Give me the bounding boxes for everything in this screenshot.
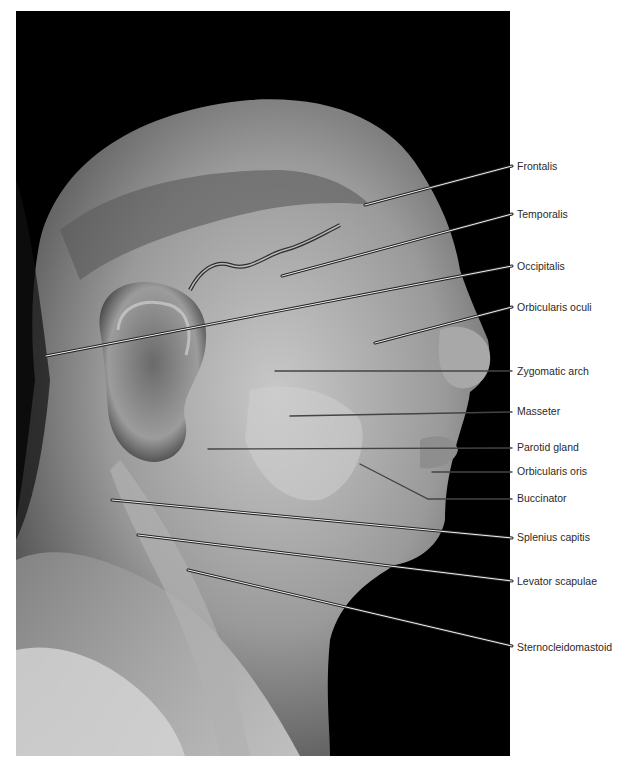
label-sternocleidomastoid: Sternocleidomastoid: [517, 641, 612, 653]
label-frontalis: Frontalis: [517, 160, 557, 172]
anatomy-figure: Frontalis Temporalis Occipitalis Orbicul…: [0, 0, 629, 769]
label-occipitalis: Occipitalis: [517, 260, 565, 272]
label-buccinator: Buccinator: [517, 492, 567, 504]
label-parotid-gland: Parotid gland: [517, 441, 579, 453]
lips-shape: [420, 436, 458, 468]
label-zygomatic-arch: Zygomatic arch: [517, 365, 589, 377]
label-orbicularis-oculi: Orbicularis oculi: [517, 301, 592, 313]
dissected-head-illustration: [0, 0, 629, 769]
label-splenius-capitis: Splenius capitis: [517, 531, 590, 543]
label-masseter: Masseter: [517, 405, 560, 417]
label-temporalis: Temporalis: [517, 208, 568, 220]
label-orbicularis-oris: Orbicularis oris: [517, 465, 587, 477]
label-levator-scapulae: Levator scapulae: [517, 575, 597, 587]
